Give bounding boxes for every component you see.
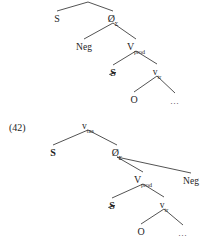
tree-node-t-neg: Neg [76, 37, 92, 53]
tree-node-t-vtr: vtr [153, 62, 161, 78]
tree-node-label: vtns [82, 121, 94, 131]
tree-node-label-ellipsis: … [178, 228, 188, 238]
example-number-42: (42) [9, 122, 26, 133]
struck-label: S [110, 68, 116, 78]
tree-node-label: ØΣ [112, 147, 123, 158]
tree-node-label: S [110, 67, 116, 78]
tree-node-b-dots: … [178, 223, 188, 239]
tree-node-b-sigma: ØΣ [112, 143, 123, 159]
tree-node-t-s2: S [110, 63, 116, 79]
tree-node-label: ØΣ [108, 13, 119, 24]
tree-node-b-o: O [137, 222, 144, 238]
tree-edges-lower [0, 0, 215, 241]
tree-node-label: O [130, 94, 137, 105]
tree-node-label: S [54, 13, 60, 24]
tree-node-subscript: tns [87, 128, 94, 134]
tree-edges-upper [0, 0, 215, 241]
tree-node-b-vtr: vtr [160, 195, 168, 211]
tree-node-label: S [50, 147, 56, 158]
tree-node-label: O [137, 226, 144, 237]
tree-node-t-s1: S [54, 9, 60, 25]
tree-node-subscript: tr [158, 74, 162, 80]
tree-node-b-s2: S [109, 196, 115, 212]
tree-edge [113, 51, 136, 65]
tree-node-t-sigma: ØΣ [108, 9, 119, 25]
tree-node-t-o: O [130, 90, 137, 106]
struck-label: S [109, 201, 115, 211]
tree-edge [117, 157, 191, 173]
tree-node-b-neg: Neg [183, 171, 199, 187]
tree-node-label: S [109, 200, 115, 211]
figure-page: SØΣNegVprodSvtrO… (42) vtnsSØΣVprodNegSv… [0, 0, 215, 241]
tree-node-label-ellipsis: … [170, 96, 180, 106]
tree-node-label: Neg [183, 176, 199, 186]
tree-node-b-s1: S [50, 143, 56, 159]
tree-node-label: vtr [160, 200, 168, 210]
tree-edge [57, 2, 88, 11]
syntax-tree-lower: vtnsSØΣVprodNegSvtrO… [0, 0, 215, 241]
tree-node-subscript: Σ [115, 21, 119, 27]
tree-node-b-vpred: Vprod [134, 170, 152, 186]
syntax-tree-upper: SØΣNegVprodSvtrO… [0, 0, 215, 241]
tree-node-t-vpred: Vprod [127, 37, 145, 53]
tree-edge [53, 130, 88, 145]
tree-node-subscript: tr [165, 207, 169, 213]
tree-node-subscript: prod [134, 49, 145, 55]
tree-node-label: vtr [153, 67, 161, 77]
tree-node-label: Neg [76, 42, 92, 52]
tree-node-subscript: prod [141, 182, 152, 188]
tree-node-t-dots: … [170, 91, 180, 107]
tree-edge [112, 184, 143, 198]
tree-node-b-root: vtns [82, 116, 94, 132]
tree-node-label: Vprod [134, 174, 152, 185]
tree-node-subscript: Σ [119, 155, 123, 161]
tree-node-label: Vprod [127, 41, 145, 52]
